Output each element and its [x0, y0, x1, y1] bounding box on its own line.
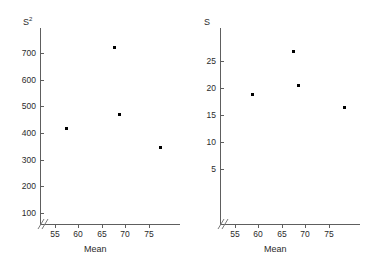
y-axis-line-right [220, 28, 221, 224]
x-ticklabel-left-55: 55 [45, 230, 65, 239]
x-ticklabel-left-65: 65 [92, 230, 112, 239]
x-axis-line-right [220, 224, 360, 225]
data-point [118, 113, 121, 116]
y-tick-left-700 [40, 53, 44, 54]
y-tick-right-15 [220, 115, 224, 116]
x-tick-right-65 [282, 224, 283, 228]
x-axis-title-left: Mean [84, 244, 107, 254]
y-axis-title-left-superscript: 2 [29, 16, 32, 22]
x-tick-right-75 [329, 224, 330, 228]
x-ticklabel-right-60: 60 [248, 230, 268, 239]
y-tick-right-5 [220, 169, 224, 170]
x-ticklabel-right-75: 75 [319, 230, 339, 239]
x-tick-left-65 [102, 224, 103, 228]
x-axis-line-left [40, 224, 180, 225]
data-point [297, 84, 300, 87]
x-ticklabel-left-75: 75 [139, 230, 159, 239]
figure-canvas: S2 100 200 300 400 500 600 700 55 60 65 [0, 0, 368, 273]
x-ticklabel-left-70: 70 [115, 230, 135, 239]
y-ticklabel-left-500: 500 [10, 102, 36, 111]
data-point [251, 93, 254, 96]
x-tick-right-55 [235, 224, 236, 228]
x-ticklabel-right-70: 70 [295, 230, 315, 239]
data-point [343, 106, 346, 109]
y-tick-left-100 [40, 213, 44, 214]
y-axis-line-left [40, 28, 41, 224]
x-ticklabel-left-60: 60 [68, 230, 88, 239]
x-axis-title-right: Mean [264, 244, 287, 254]
data-point [113, 46, 116, 49]
data-point [65, 127, 68, 130]
y-ticklabel-left-100: 100 [10, 209, 36, 218]
data-point [292, 50, 295, 53]
y-tick-left-300 [40, 160, 44, 161]
y-ticklabel-right-25: 25 [190, 57, 216, 66]
y-ticklabel-right-5: 5 [190, 165, 216, 174]
y-axis-title-left: S2 [23, 16, 32, 27]
x-tick-left-70 [125, 224, 126, 228]
y-axis-title-right-base: S [204, 17, 210, 27]
data-point [159, 146, 162, 149]
x-tick-left-55 [55, 224, 56, 228]
y-tick-right-20 [220, 88, 224, 89]
scatter-panel-left: S2 100 200 300 400 500 600 700 55 60 65 [0, 0, 184, 273]
y-tick-right-10 [220, 142, 224, 143]
x-tick-left-60 [78, 224, 79, 228]
y-ticklabel-right-15: 15 [190, 111, 216, 120]
y-ticklabel-right-10: 10 [190, 138, 216, 147]
y-tick-right-25 [220, 61, 224, 62]
x-tick-right-70 [305, 224, 306, 228]
y-tick-left-400 [40, 133, 44, 134]
x-tick-right-60 [258, 224, 259, 228]
x-tick-left-75 [149, 224, 150, 228]
y-ticklabel-left-300: 300 [10, 156, 36, 165]
y-axis-title-right: S [204, 16, 210, 27]
x-ticklabel-right-55: 55 [225, 230, 245, 239]
scatter-panel-right: S 5 10 15 20 25 55 60 65 70 75 [184, 0, 368, 273]
y-tick-left-200 [40, 186, 44, 187]
y-ticklabel-left-700: 700 [10, 49, 36, 58]
y-tick-left-600 [40, 80, 44, 81]
y-ticklabel-left-400: 400 [10, 129, 36, 138]
y-tick-left-500 [40, 106, 44, 107]
y-ticklabel-left-600: 600 [10, 76, 36, 85]
y-ticklabel-right-20: 20 [190, 84, 216, 93]
x-ticklabel-right-65: 65 [272, 230, 292, 239]
y-ticklabel-left-200: 200 [10, 182, 36, 191]
